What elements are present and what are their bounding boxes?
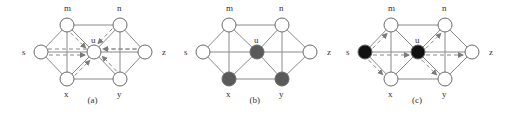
node-label-m: m — [388, 3, 395, 13]
edge-n-z — [287, 30, 305, 47]
node-m — [222, 18, 236, 32]
edge-n-u — [99, 30, 115, 47]
node-label-z: z — [162, 47, 166, 57]
node-label-m: m — [226, 3, 233, 13]
edge-y-u — [423, 57, 440, 74]
node-s — [358, 45, 372, 59]
node-label-s: s — [184, 47, 188, 57]
message-arrow-s-to-m — [373, 34, 387, 49]
node-label-s: s — [346, 47, 350, 57]
node-s — [34, 45, 48, 59]
edge-y-z — [450, 57, 467, 74]
node-label-n: n — [442, 3, 447, 13]
network-diagram-figure: smnuzxy(a) smnuzxy(b) smnuzxy(c) — [0, 0, 515, 117]
node-label-m: m — [64, 3, 71, 13]
panel-b: smnuzxy(b) — [184, 3, 331, 105]
node-x — [222, 72, 236, 86]
panel-caption: (a) — [88, 95, 98, 105]
node-label-x: x — [226, 89, 231, 99]
panel-a: smnuzxy(a) — [22, 3, 166, 105]
edge-x-u — [396, 57, 413, 74]
node-label-z: z — [327, 47, 331, 57]
node-label-x: x — [64, 89, 69, 99]
edge-s-x — [208, 57, 224, 74]
edge-s-m — [370, 30, 386, 47]
edge-s-x — [370, 57, 386, 74]
panel-caption: (c) — [412, 95, 422, 105]
node-label-y: y — [442, 89, 447, 99]
node-u — [250, 45, 264, 59]
node-z — [138, 45, 152, 59]
node-y — [275, 72, 289, 86]
edge-y-z — [125, 57, 140, 74]
node-label-u: u — [91, 35, 96, 45]
node-label-z: z — [489, 47, 493, 57]
edge-m-u — [234, 30, 252, 47]
edge-n-z — [450, 30, 467, 47]
edge-x-u — [72, 57, 89, 74]
node-label-n: n — [117, 3, 122, 13]
node-label-u: u — [415, 35, 420, 45]
node-x — [384, 72, 398, 86]
edge-s-m — [208, 30, 224, 47]
message-arrow-n-to-u — [98, 29, 112, 44]
message-arrow-s-to-x — [368, 60, 382, 75]
edge-m-u — [396, 30, 413, 47]
node-m — [60, 18, 74, 32]
panel-c: smnuzxy(c) — [346, 3, 493, 105]
message-arrow-u-to-y — [422, 60, 437, 75]
edge-y-u — [262, 57, 277, 74]
node-m — [384, 18, 398, 32]
node-z — [465, 45, 479, 59]
node-label-y: y — [279, 89, 284, 99]
node-x — [60, 72, 74, 86]
node-label-x: x — [388, 89, 393, 99]
node-label-n: n — [279, 3, 284, 13]
node-u — [87, 45, 101, 59]
node-n — [438, 18, 452, 32]
edge-s-m — [46, 30, 62, 47]
edge-n-z — [125, 30, 140, 47]
panel-caption: (b) — [250, 95, 261, 105]
node-y — [113, 72, 127, 86]
message-arrow-m-to-u — [71, 33, 86, 48]
node-u — [411, 45, 425, 59]
node-label-s: s — [22, 47, 26, 57]
edge-n-u — [423, 30, 440, 47]
message-arrow-x-to-u — [75, 60, 90, 75]
node-n — [113, 18, 127, 32]
message-arrow-u-to-n — [426, 33, 441, 48]
edge-m-u — [72, 30, 89, 47]
edge-s-x — [46, 57, 62, 74]
node-label-y: y — [117, 89, 122, 99]
node-s — [196, 45, 210, 59]
edge-x-u — [234, 57, 252, 74]
message-arrow-y-to-u — [102, 56, 116, 71]
node-y — [438, 72, 452, 86]
edge-y-z — [287, 57, 305, 74]
node-label-u: u — [254, 35, 259, 45]
node-z — [303, 45, 317, 59]
node-n — [275, 18, 289, 32]
edge-n-u — [262, 30, 277, 47]
edge-y-u — [99, 57, 115, 74]
